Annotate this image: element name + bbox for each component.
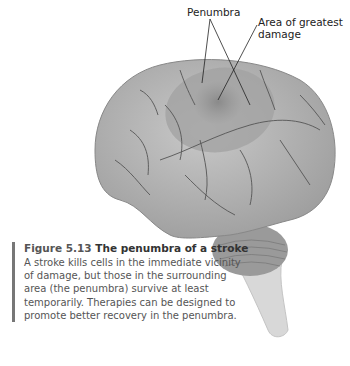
figure-caption: Figure 5.13 The penumbra of a stroke A s… <box>12 242 249 322</box>
damage-label: Area of greatest damage <box>258 16 348 40</box>
figure: Penumbra Area of greatest damage Figure … <box>0 0 350 366</box>
caption-body: A stroke kills cells in the immediate vi… <box>24 256 249 322</box>
figure-title: The penumbra of a stroke <box>95 242 248 254</box>
penumbra-label: Penumbra <box>187 6 240 18</box>
figure-number: Figure 5.13 <box>24 242 92 254</box>
caption-heading: Figure 5.13 The penumbra of a stroke <box>24 242 249 255</box>
